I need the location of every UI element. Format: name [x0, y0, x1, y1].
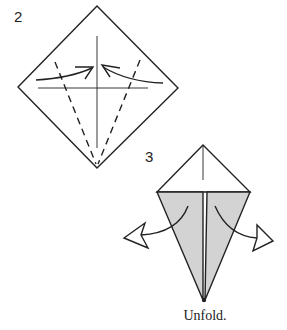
kite-top — [157, 145, 250, 192]
unfold-caption: Unfold. — [175, 308, 235, 324]
right-fold-dashed-line — [98, 60, 140, 164]
step-3-diagram — [124, 145, 273, 302]
left-hollow-arrowhead-icon — [124, 223, 148, 248]
square-paper — [18, 6, 178, 168]
left-fold-arrow-icon — [36, 68, 92, 80]
right-flap — [205, 192, 250, 300]
right-fold-arrow-icon — [103, 67, 163, 83]
step-2-diagram — [18, 6, 178, 168]
origami-diagram — [0, 0, 287, 330]
left-flap — [157, 192, 203, 300]
